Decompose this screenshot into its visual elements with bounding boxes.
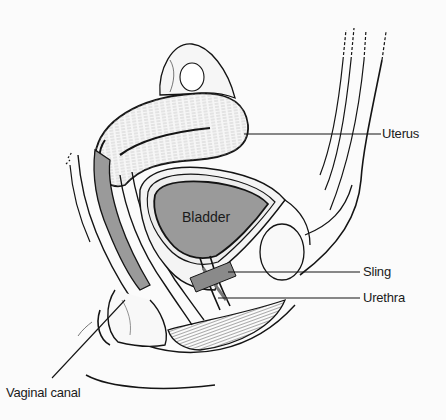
- vaginal-canal-leader-line: [52, 300, 125, 378]
- perineum: [145, 300, 295, 352]
- bladder-label: Bladder: [182, 210, 230, 224]
- callout-label-uterus: Uterus: [382, 127, 419, 140]
- anatomy-diagram: Bladder Uterus Sling Urethra Vaginal can…: [0, 0, 446, 420]
- callout-label-vaginal-canal: Vaginal canal: [6, 386, 81, 399]
- callout-label-sling: Sling: [363, 265, 391, 278]
- callout-label-urethra: Urethra: [363, 291, 405, 304]
- sacrum-lines: [300, 28, 386, 275]
- ovary: [160, 44, 235, 98]
